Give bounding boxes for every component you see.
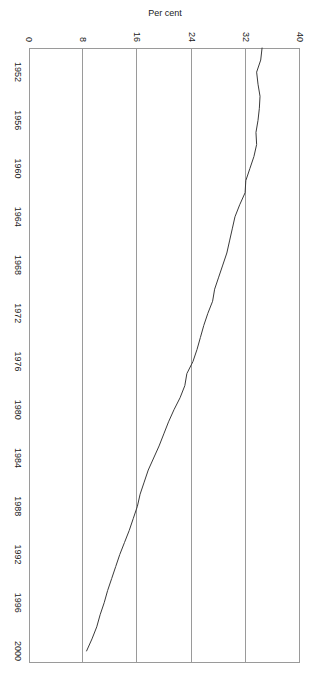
year-tick-1988: 1988	[13, 496, 23, 516]
year-tick-1956: 1956	[13, 110, 23, 130]
value-axis-title: Per cent	[148, 8, 182, 18]
value-tick-40: 40	[295, 22, 305, 42]
year-tick-1980: 1980	[13, 400, 23, 420]
value-tick-8: 8	[78, 22, 88, 42]
plot-area	[29, 48, 300, 663]
series-line-chart	[29, 48, 300, 663]
year-tick-1976: 1976	[13, 352, 23, 372]
value-tick-32: 32	[241, 22, 251, 42]
year-tick-1996: 1996	[13, 593, 23, 613]
value-tick-24: 24	[187, 22, 197, 42]
year-tick-1964: 1964	[13, 207, 23, 227]
series-line-per-cent	[87, 48, 262, 651]
value-tick-16: 16	[132, 22, 142, 42]
value-tick-0: 0	[24, 22, 34, 42]
year-tick-1992: 1992	[13, 544, 23, 564]
year-tick-2000: 2000	[13, 641, 23, 661]
rotated-chart-canvas: Per cent 1952195619601964196819721976198…	[0, 0, 334, 684]
chart-figure: Per cent 1952195619601964196819721976198…	[0, 0, 334, 684]
year-tick-1968: 1968	[13, 255, 23, 275]
year-tick-1984: 1984	[13, 448, 23, 468]
year-tick-1960: 1960	[13, 159, 23, 179]
year-tick-1972: 1972	[13, 303, 23, 323]
year-tick-1952: 1952	[13, 62, 23, 82]
